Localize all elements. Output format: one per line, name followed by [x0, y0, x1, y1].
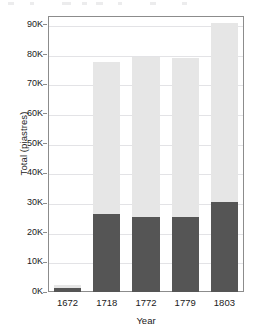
y-tick-label: 60K — [2, 108, 43, 118]
x-axis-title: Year — [48, 315, 244, 326]
bar-segment-lower-segment[interactable] — [93, 214, 120, 292]
y-tick-label: 10K — [2, 256, 43, 266]
bar-segment-lower-segment[interactable] — [172, 217, 199, 292]
bar-segment-lower-segment[interactable] — [132, 217, 159, 292]
y-tick-mark — [43, 203, 47, 204]
y-tick-label: 90K — [2, 19, 43, 29]
y-axis-ticks: 0K10K20K30K40K50K60K70K80K90K — [0, 0, 48, 335]
bar-group[interactable] — [211, 16, 238, 292]
y-tick-mark — [43, 84, 47, 85]
x-tick-label: 1718 — [96, 297, 117, 308]
bar-segment-upper-segment[interactable] — [93, 62, 120, 214]
bar-segment-upper-segment[interactable] — [54, 285, 81, 288]
x-tick-label: 1779 — [175, 297, 196, 308]
bar-group[interactable] — [172, 16, 199, 292]
y-tick-mark — [43, 262, 47, 263]
bar-group[interactable] — [54, 16, 81, 292]
y-tick-label: 30K — [2, 197, 43, 207]
stacked-bar-chart: Total (piastres) 0K10K20K30K40K50K60K70K… — [0, 0, 256, 335]
y-tick-label: 40K — [2, 167, 43, 177]
bar-segment-upper-segment[interactable] — [172, 58, 199, 217]
y-tick-label: 20K — [2, 227, 43, 237]
y-tick-mark — [43, 24, 47, 25]
y-tick-mark — [43, 292, 47, 293]
y-tick-label: 0K — [2, 286, 43, 296]
y-tick-label: 80K — [2, 49, 43, 59]
bar-segment-upper-segment[interactable] — [132, 57, 159, 217]
x-tick-label: 1672 — [57, 297, 78, 308]
y-tick-mark — [43, 232, 47, 233]
bar-segment-upper-segment[interactable] — [211, 23, 238, 202]
x-tick-label: 1772 — [135, 297, 156, 308]
x-axis-ticks: 16721718177217791803 — [48, 292, 244, 316]
y-tick-mark — [43, 173, 47, 174]
y-tick-label: 50K — [2, 138, 43, 148]
y-tick-mark — [43, 113, 47, 114]
bar-group[interactable] — [93, 16, 120, 292]
bar-segment-lower-segment[interactable] — [211, 202, 238, 292]
y-tick-mark — [43, 54, 47, 55]
y-tick-mark — [43, 143, 47, 144]
bar-group[interactable] — [132, 16, 159, 292]
x-tick-label: 1803 — [214, 297, 235, 308]
y-tick-label: 70K — [2, 78, 43, 88]
bars-container — [48, 16, 244, 292]
